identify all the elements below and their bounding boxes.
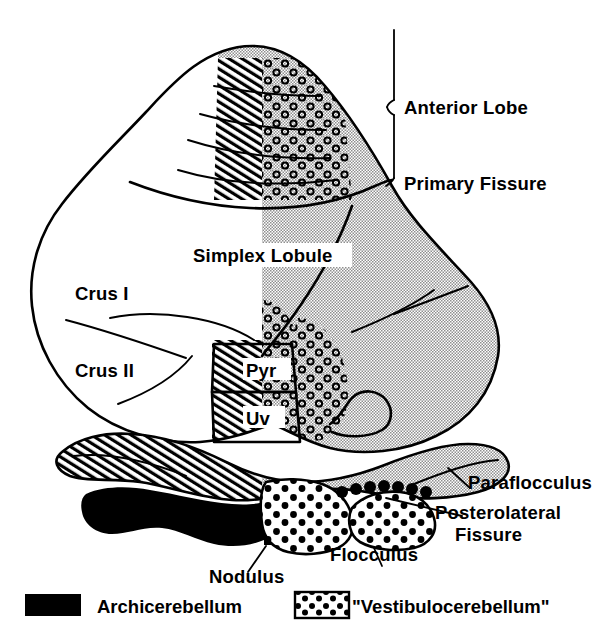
- legend: Archicerebellum "Vestibulocerebellum": [25, 592, 549, 618]
- anterior-lobe-brace: [386, 30, 394, 186]
- cerebellum-diagram: Anterior Lobe Primary Fissure Simplex Lo…: [0, 0, 611, 624]
- label-anterior-lobe: Anterior Lobe: [404, 97, 528, 118]
- anterior-lobe-region: [212, 50, 354, 210]
- label-crus-ii: Crus II: [75, 360, 134, 381]
- label-flocculus: Flocculus: [330, 544, 418, 565]
- vermis-hatch-band: [212, 340, 262, 450]
- label-crus-i: Crus I: [75, 283, 129, 304]
- label-simplex-lobule: Simplex Lobule: [193, 245, 333, 266]
- legend-swatch-archicerebellum: [25, 594, 81, 616]
- legend-label-archicerebellum: Archicerebellum: [97, 596, 242, 617]
- label-nodulus: Nodulus: [209, 566, 284, 587]
- label-uvula: Uv: [246, 408, 271, 429]
- label-posterolateral-fissure-line1: Posterolateral: [435, 502, 561, 523]
- legend-label-vestibulocerebellum: "Vestibulocerebellum": [352, 596, 549, 617]
- legend-swatch-vestibulocerebellum: [295, 592, 349, 618]
- label-paraflocculus: Paraflocculus: [468, 472, 592, 493]
- label-pyramis: Pyr: [246, 360, 276, 381]
- label-primary-fissure: Primary Fissure: [404, 173, 547, 194]
- label-posterolateral-fissure-line2: Fissure: [455, 524, 522, 545]
